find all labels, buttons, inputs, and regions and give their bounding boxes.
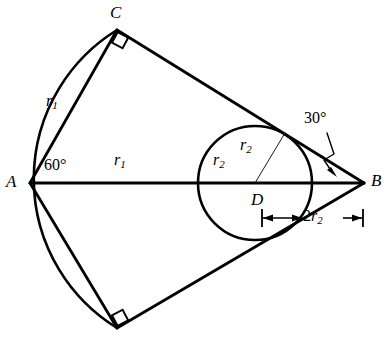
dimension-label-2r2: 2r2 xyxy=(303,208,323,226)
point-label-B: B xyxy=(371,172,381,189)
subscript-1: 1 xyxy=(52,99,58,111)
subscript-2: 2 xyxy=(317,214,323,226)
dimension-arrow-right xyxy=(352,214,362,221)
leader-line-30-degree xyxy=(324,133,334,172)
point-label-D: D xyxy=(251,191,263,208)
radius-line-D-to-tangent xyxy=(255,133,285,183)
point-label-A: A xyxy=(6,173,16,190)
angle-label-30: 30° xyxy=(304,110,326,126)
point-label-C: C xyxy=(110,4,121,21)
subscript-1: 1 xyxy=(120,158,126,170)
radius-label-r2-upper: r2 xyxy=(240,137,252,155)
radius-label-r1-side: r1 xyxy=(46,93,58,111)
dimension-coefficient: 2 xyxy=(303,207,311,224)
radius-label-r1-axis: r1 xyxy=(114,152,126,170)
angle-label-60: 60° xyxy=(44,157,66,173)
subscript-2: 2 xyxy=(219,158,225,170)
radius-label-r2-left: r2 xyxy=(213,152,225,170)
side-AC-prime xyxy=(30,183,117,328)
side-CB xyxy=(117,30,364,183)
dimension-arrow-left xyxy=(263,214,273,221)
geometry-diagram: A B C D 60° 30° r1 r1 r2 r2 2r2 xyxy=(0,0,387,339)
arc-C-to-C-prime xyxy=(34,30,117,328)
side-C-prime-B xyxy=(117,183,364,328)
leader-arrowhead-30-degree xyxy=(327,167,337,177)
subscript-2: 2 xyxy=(246,143,252,155)
